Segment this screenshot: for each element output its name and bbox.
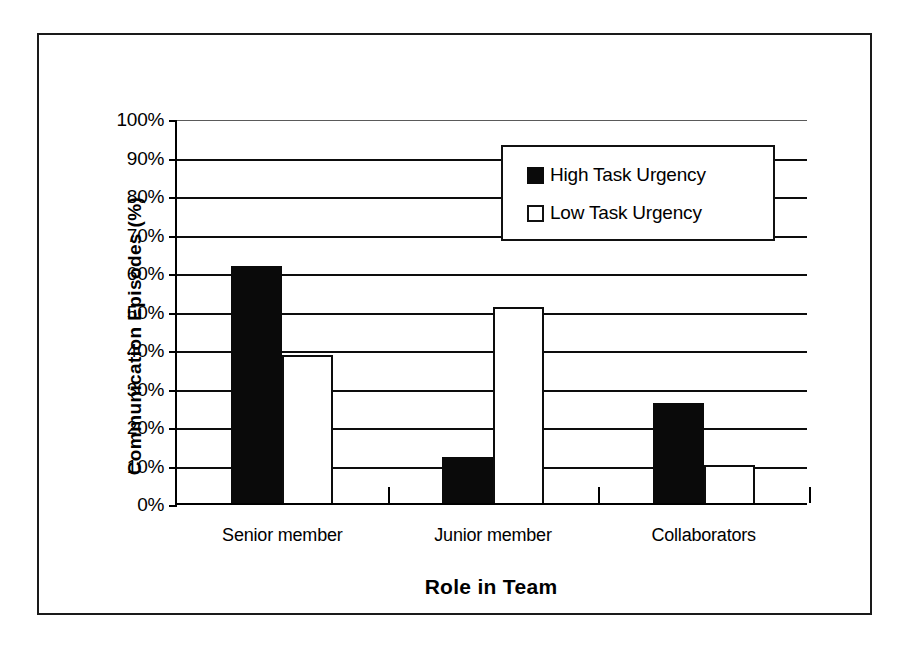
legend-item-low[interactable]: Low Task Urgency: [527, 194, 773, 232]
y-tick-label-0: 0%: [137, 494, 164, 516]
y-tick-label-50: 50%: [127, 302, 164, 324]
y-tick-70: [169, 236, 177, 238]
legend-swatch-high-icon: [527, 167, 544, 184]
y-tick-label-100: 100%: [117, 109, 164, 131]
bar-collaborators-low-task-urgency[interactable]: [704, 465, 755, 504]
bar-collaborators-high-task-urgency[interactable]: [653, 403, 704, 503]
x-tick-label-senior-member: Senior member: [222, 525, 342, 546]
legend-swatch-low-icon: [527, 205, 544, 222]
y-tick-label-60: 60%: [127, 263, 164, 285]
y-tick-label-40: 40%: [127, 340, 164, 362]
x-tick-label-junior-member: Junior member: [434, 525, 551, 546]
y-tick-label-30: 30%: [127, 379, 164, 401]
y-tick-80: [169, 197, 177, 199]
chart-page: Communication Episodes (%) 100%90%80%70%…: [0, 0, 904, 645]
legend-label-low: Low Task Urgency: [550, 202, 702, 224]
x-axis-title: Role in Team: [175, 575, 807, 599]
y-tick-label-10: 10%: [127, 456, 164, 478]
legend-item-high[interactable]: High Task Urgency: [527, 156, 773, 194]
y-tick-label-80: 80%: [127, 186, 164, 208]
y-tick-label-90: 90%: [127, 148, 164, 170]
category-separator-2: [598, 487, 600, 503]
y-tick-label-70: 70%: [127, 225, 164, 247]
y-tick-label-20: 20%: [127, 417, 164, 439]
y-tick-0: [169, 505, 177, 507]
y-tick-90: [169, 159, 177, 161]
bar-junior-member-low-task-urgency[interactable]: [493, 307, 544, 503]
bar-junior-member-high-task-urgency[interactable]: [442, 457, 493, 503]
category-separator-1: [388, 487, 390, 503]
x-tick-label-collaborators: Collaborators: [651, 525, 755, 546]
y-tick-30: [169, 390, 177, 392]
y-tick-40: [169, 351, 177, 353]
legend-label-high: High Task Urgency: [550, 164, 706, 186]
y-tick-20: [169, 428, 177, 430]
y-tick-10: [169, 467, 177, 469]
chart-legend: High Task Urgency Low Task Urgency: [501, 145, 775, 241]
bar-senior-member-high-task-urgency[interactable]: [231, 266, 282, 503]
y-tick-100: [169, 120, 177, 122]
bar-senior-member-low-task-urgency[interactable]: [282, 355, 333, 503]
y-tick-60: [169, 274, 177, 276]
figure-frame: Communication Episodes (%) 100%90%80%70%…: [37, 33, 872, 615]
gridline-100: [177, 120, 807, 121]
y-tick-50: [169, 313, 177, 315]
category-separator-end: [809, 487, 811, 503]
